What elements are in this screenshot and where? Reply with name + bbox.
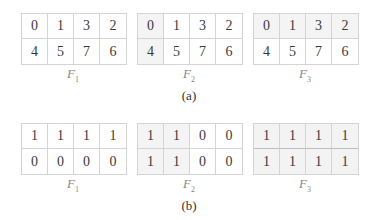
cell: 1: [164, 124, 190, 149]
cell: 1: [164, 149, 190, 174]
cell: 7: [306, 39, 332, 64]
cell: 0: [216, 124, 242, 149]
cell: 6: [332, 39, 358, 64]
cell: 4: [138, 39, 164, 64]
grid-label-f2: F2: [137, 176, 241, 194]
cell: 0: [138, 14, 164, 39]
cell: 1: [48, 124, 74, 149]
kmap-grid-b-f3: 1 1 1 1 1 1 1 1: [253, 123, 359, 175]
cell: 1: [74, 124, 100, 149]
grid-label-f1: F1: [21, 66, 125, 84]
cell: 4: [254, 39, 280, 64]
cell: 0: [190, 149, 216, 174]
panel-caption-b: (b): [137, 198, 241, 214]
cell: 1: [164, 14, 190, 39]
kmap-grid-a-f3: 0 1 3 2 4 5 7 6: [253, 13, 359, 65]
cell: 1: [138, 124, 164, 149]
cell: 0: [48, 149, 74, 174]
kmap-grid-a-f2: 0 1 3 2 4 5 7 6: [137, 13, 243, 65]
cell: 1: [22, 124, 48, 149]
cell: 3: [74, 14, 100, 39]
cell: 1: [306, 124, 332, 149]
cell: 1: [280, 14, 306, 39]
grid-label-f1: F1: [21, 176, 125, 194]
cell: 5: [280, 39, 306, 64]
cell: 2: [100, 14, 126, 39]
panel-caption-a: (a): [137, 88, 241, 104]
cell: 1: [280, 124, 306, 149]
cell: 6: [100, 39, 126, 64]
cell: 0: [22, 149, 48, 174]
cell: 1: [280, 149, 306, 174]
cell: 5: [48, 39, 74, 64]
cell: 0: [100, 149, 126, 174]
cell: 0: [74, 149, 100, 174]
kmap-grid-a-f1: 0 1 3 2 4 5 7 6: [21, 13, 127, 65]
cell: 1: [332, 149, 358, 174]
cell: 1: [254, 124, 280, 149]
cell: 1: [100, 124, 126, 149]
cell: 7: [74, 39, 100, 64]
grid-label-f2: F2: [137, 66, 241, 84]
cell: 1: [332, 124, 358, 149]
cell: 2: [332, 14, 358, 39]
grid-label-f3: F3: [253, 66, 357, 84]
cell: 1: [48, 14, 74, 39]
cell: 4: [22, 39, 48, 64]
grid-label-f3: F3: [253, 176, 357, 194]
cell: 2: [216, 14, 242, 39]
cell: 0: [254, 14, 280, 39]
cell: 1: [254, 149, 280, 174]
kmap-grid-b-f1: 1 1 1 1 0 0 0 0: [21, 123, 127, 175]
cell: 0: [190, 124, 216, 149]
cell: 1: [306, 149, 332, 174]
cell: 0: [22, 14, 48, 39]
cell: 6: [216, 39, 242, 64]
cell: 5: [164, 39, 190, 64]
cell: 3: [306, 14, 332, 39]
cell: 3: [190, 14, 216, 39]
kmap-grid-b-f2: 1 1 0 0 1 1 0 0: [137, 123, 243, 175]
cell: 0: [216, 149, 242, 174]
cell: 7: [190, 39, 216, 64]
cell: 1: [138, 149, 164, 174]
